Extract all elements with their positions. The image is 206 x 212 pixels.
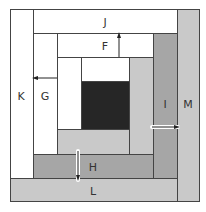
arrow-i-icon [152, 125, 180, 129]
label-m: M [183, 99, 193, 110]
label-i: I [163, 99, 166, 110]
label-k: K [17, 91, 24, 102]
arrow-f-icon [117, 32, 121, 57]
label-f: F [102, 41, 108, 52]
label-h: H [89, 162, 97, 173]
label-g: G [41, 91, 50, 102]
arrow-h-icon [76, 151, 80, 181]
arrows-layer [0, 0, 206, 212]
label-j: J [103, 17, 106, 28]
arrow-g-icon [32, 76, 57, 80]
label-l: L [90, 186, 96, 197]
